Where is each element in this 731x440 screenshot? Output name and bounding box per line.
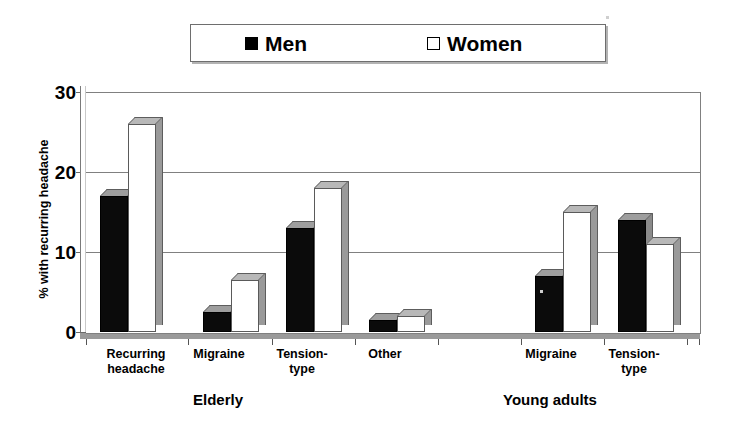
bar-women-elderly-tension-type bbox=[314, 188, 342, 332]
bar-front-face bbox=[231, 280, 259, 332]
bar-front-face bbox=[535, 276, 563, 332]
bar-front-face bbox=[646, 244, 674, 332]
x-tick-6 bbox=[604, 339, 605, 345]
x-category-line-2: type bbox=[579, 362, 689, 377]
x-tick-5 bbox=[521, 339, 522, 345]
y-axis-title: % with recurring headache bbox=[37, 89, 51, 349]
x-tick-7 bbox=[687, 339, 688, 345]
legend-label-men: Men bbox=[265, 33, 307, 54]
bar-front-face bbox=[314, 188, 342, 332]
bar-front-face bbox=[563, 212, 591, 332]
bar-women-elderly-recurring-headache bbox=[128, 124, 156, 332]
hollow-square-icon bbox=[427, 37, 440, 50]
bar-men-elderly-tension-type bbox=[286, 228, 314, 332]
bar-side-face bbox=[259, 273, 266, 325]
scan-speck bbox=[540, 290, 543, 293]
y-tick-label-10: 10 bbox=[44, 243, 76, 262]
legend-entry-women: Women bbox=[427, 33, 522, 54]
x-tick-2 bbox=[272, 339, 273, 345]
x-tick-3 bbox=[355, 339, 356, 345]
x-tick-4 bbox=[438, 339, 439, 345]
bar-front-face bbox=[203, 312, 231, 332]
bar-side-face bbox=[674, 237, 681, 325]
group-label-young-adults: Young adults bbox=[455, 392, 645, 407]
x-category-label-other: Other bbox=[330, 347, 440, 362]
y-tick-label-0: 0 bbox=[44, 323, 76, 342]
x-category-line-2: type bbox=[247, 362, 357, 377]
x-category-label-tension-type-young-adults: Tension- type bbox=[579, 347, 689, 377]
x-axis-ticks bbox=[86, 339, 700, 345]
scan-speck bbox=[606, 16, 609, 19]
bar-women-young-adults-tension-type bbox=[646, 244, 674, 332]
bar-men-young-adults-tension-type bbox=[618, 220, 646, 332]
bar-women-young-adults-migraine bbox=[563, 212, 591, 332]
bar-front-face bbox=[618, 220, 646, 332]
y-tick-label-30: 30 bbox=[44, 83, 76, 102]
x-category-line-2: headache bbox=[81, 362, 191, 377]
bar-men-elderly-recurring-headache bbox=[100, 196, 128, 332]
bar-front-face bbox=[397, 316, 425, 332]
bars-layer bbox=[86, 92, 700, 339]
chart-legend: Men Women bbox=[190, 24, 606, 62]
legend-entry-men: Men bbox=[245, 33, 307, 54]
filled-square-icon bbox=[245, 37, 258, 50]
y-tick-label-20: 20 bbox=[44, 163, 76, 182]
legend-label-women: Women bbox=[447, 33, 522, 54]
bar-side-face bbox=[591, 205, 598, 325]
bar-front-face bbox=[286, 228, 314, 332]
x-tick-8 bbox=[699, 339, 700, 345]
bar-side-face bbox=[342, 181, 349, 325]
x-category-line-1: Other bbox=[330, 347, 440, 362]
bar-men-young-adults-migraine bbox=[535, 276, 563, 332]
bar-women-elderly-migraine bbox=[231, 280, 259, 332]
bar-front-face bbox=[128, 124, 156, 332]
bar-men-elderly-other bbox=[369, 320, 397, 332]
x-category-line-1: Tension- bbox=[579, 347, 689, 362]
chart-figure: Men Women % with recurring headache 30 2… bbox=[0, 0, 731, 440]
group-label-elderly: Elderly bbox=[123, 392, 313, 407]
x-tick-0 bbox=[86, 339, 87, 345]
bar-front-face bbox=[369, 320, 397, 332]
bar-front-face bbox=[100, 196, 128, 332]
bar-side-face bbox=[156, 117, 163, 325]
bar-women-elderly-other bbox=[397, 316, 425, 332]
x-tick-1 bbox=[188, 339, 189, 345]
bar-men-elderly-migraine bbox=[203, 312, 231, 332]
